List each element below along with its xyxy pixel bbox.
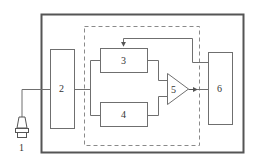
block-diagram: 1 2 3 4 5 6 xyxy=(0,0,255,166)
label-block6: 6 xyxy=(217,83,222,94)
wire-sensor-to-block2 xyxy=(22,90,50,118)
label-sensor: 1 xyxy=(19,142,24,153)
wire-block3-to-amp xyxy=(148,61,168,81)
wire-block4-to-amp xyxy=(148,97,168,116)
label-block4: 4 xyxy=(121,109,126,120)
label-amplifier: 5 xyxy=(171,84,176,95)
wire-split-to-block3-4 xyxy=(91,61,101,116)
label-block2: 2 xyxy=(59,83,64,94)
sensor-probe-icon xyxy=(16,117,29,138)
label-block3: 3 xyxy=(121,55,126,66)
